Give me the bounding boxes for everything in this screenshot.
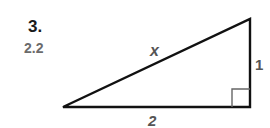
triangle-shape: [63, 19, 250, 107]
vertical-leg-label: 1: [255, 56, 263, 73]
hypotenuse-label: x: [149, 42, 160, 59]
right-triangle-diagram: x 1 2: [0, 0, 270, 128]
horizontal-leg-label: 2: [147, 112, 157, 128]
problem-figure: 3. 2.2 x 1 2: [0, 0, 270, 128]
right-angle-marker: [232, 89, 250, 107]
